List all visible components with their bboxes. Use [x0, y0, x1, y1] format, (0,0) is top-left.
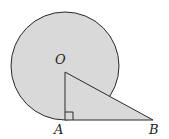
- label-b: B: [148, 122, 159, 137]
- geometry-diagram: O A B: [0, 0, 169, 139]
- label-a: A: [53, 122, 63, 137]
- label-o: O: [55, 52, 66, 67]
